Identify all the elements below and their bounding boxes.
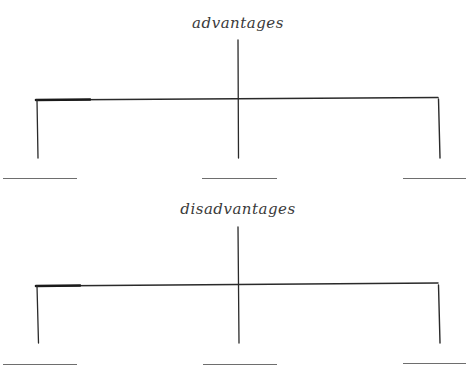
tree-diagram-worksheet: advantages disadvantages: [0, 0, 466, 367]
disadvantages-crossbar: [36, 283, 438, 286]
disadvantages-right-branch: [439, 285, 441, 343]
advantages-tree: [36, 40, 440, 158]
disadvantages-title: disadvantages: [138, 200, 338, 218]
disadvantages-tree: [36, 227, 440, 343]
advantages-blank-right[interactable]: [403, 178, 466, 179]
advantages-blank-left[interactable]: [3, 178, 77, 179]
tree-lines: [0, 0, 466, 367]
advantages-left-branch: [37, 100, 38, 158]
disadvantages-blank-center[interactable]: [203, 364, 277, 365]
disadvantages-blank-right[interactable]: [403, 363, 466, 364]
disadvantages-blank-left[interactable]: [3, 364, 77, 365]
advantages-crossbar: [36, 98, 438, 101]
disadvantages-left-branch: [37, 286, 39, 343]
advantages-blank-center[interactable]: [202, 178, 277, 179]
advantages-right-branch: [439, 99, 441, 158]
